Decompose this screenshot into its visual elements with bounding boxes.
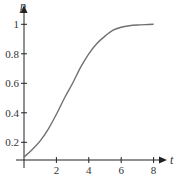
data-curve — [24, 24, 154, 157]
y-tick-label: 1 — [14, 18, 20, 30]
x-axis-label: t — [170, 153, 174, 167]
y-tick-label: 0.8 — [5, 48, 19, 60]
y-tick-label: 0.2 — [5, 136, 19, 148]
x-tick-label: 4 — [86, 164, 92, 176]
y-tick-label: 0.4 — [5, 107, 19, 119]
y-axis-label: p — [19, 0, 26, 13]
x-axis-arrow-icon — [159, 157, 167, 164]
x-tick-label: 8 — [151, 164, 157, 176]
x-tick-label: 6 — [118, 164, 124, 176]
y-tick-label: 0.6 — [5, 77, 19, 89]
x-tick-label: 2 — [54, 164, 60, 176]
logistic-curve-chart: 0.20.40.60.81 2468 p t — [0, 0, 177, 188]
